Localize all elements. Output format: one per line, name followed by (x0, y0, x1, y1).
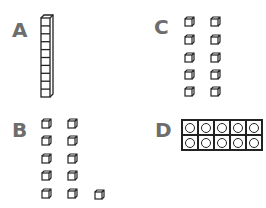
circle-icon (217, 138, 227, 148)
cube-icon (94, 189, 105, 200)
circle-icon (249, 123, 259, 133)
ten-rod-icon (39, 14, 55, 98)
cube-icon (41, 153, 52, 164)
circle-icon (201, 138, 211, 148)
cube-icon (184, 34, 195, 45)
circle-icon (185, 138, 195, 148)
cube-icon (184, 86, 195, 97)
cube-icon (184, 52, 195, 63)
ten-frame-cell (246, 135, 262, 150)
ten-frame-cell (182, 135, 198, 150)
option-c-label: C (154, 17, 169, 37)
circle-icon (233, 138, 243, 148)
cube-icon (184, 16, 195, 27)
cube-icon (41, 170, 52, 181)
ten-frame-cell (214, 135, 230, 150)
circle-icon (233, 123, 243, 133)
cube-icon (41, 118, 52, 129)
circle-icon (249, 138, 259, 148)
option-d-label: D (155, 120, 172, 140)
cube-icon (67, 135, 78, 146)
option-a-label: A (12, 20, 27, 40)
cube-icon (210, 34, 221, 45)
cube-icon (210, 86, 221, 97)
circle-icon (201, 123, 211, 133)
circle-icon (185, 123, 195, 133)
cube-icon (210, 69, 221, 80)
cube-icon (41, 188, 52, 199)
cube-icon (67, 118, 78, 129)
ten-frame-cell (230, 135, 246, 150)
cube-icon (67, 188, 78, 199)
ten-frame-cell (230, 120, 246, 135)
ten-frame-cell (182, 120, 198, 135)
cube-icon (210, 16, 221, 27)
cube-icon (41, 135, 52, 146)
ten-frame-cell (214, 120, 230, 135)
cube-icon (67, 170, 78, 181)
ten-frame-cell (246, 120, 262, 135)
cube-icon (67, 153, 78, 164)
cube-icon (210, 52, 221, 63)
ten-frame-cell (198, 135, 214, 150)
cube-icon (184, 69, 195, 80)
ten-frame (181, 119, 263, 151)
circle-icon (217, 123, 227, 133)
option-b-label: B (12, 120, 27, 140)
ten-frame-cell (198, 120, 214, 135)
